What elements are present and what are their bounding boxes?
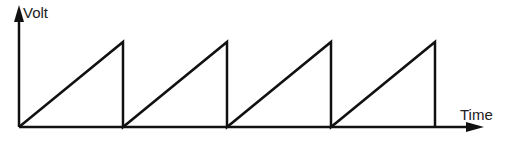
x-axis-label: Time [460, 106, 493, 123]
x-axis-arrow-icon [466, 122, 484, 132]
sawtooth-diagram: Volt Time [0, 0, 508, 142]
sawtooth-waveform [19, 42, 435, 127]
y-axis-label: Volt [23, 4, 49, 21]
